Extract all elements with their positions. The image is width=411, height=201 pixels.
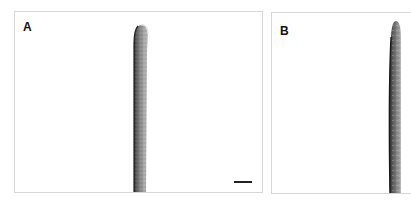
panel-a: A [14,11,263,193]
hair-image-b [382,17,411,194]
hair-image-a [125,22,155,193]
panel-label-a: A [23,21,32,33]
panel-b: B [271,12,411,194]
scale-bar [234,181,252,183]
panel-label-b: B [280,25,289,37]
